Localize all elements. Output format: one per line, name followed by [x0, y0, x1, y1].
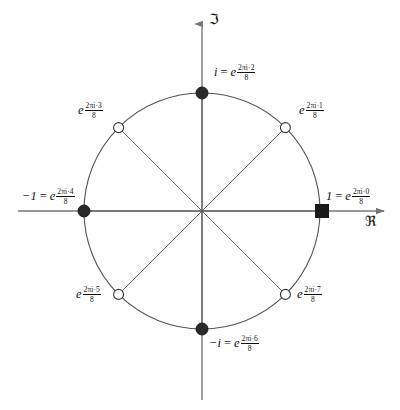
root-label-k2-prefix: i	[214, 66, 217, 79]
root-marker-k2	[196, 87, 208, 99]
root-label-k0-base: e	[345, 190, 351, 203]
root-label-k0-numerator: 2πi·0	[352, 188, 370, 196]
root-label-k0: 1 = e 2πi·0 8	[326, 190, 370, 212]
root-label-k3-denominator: 8	[85, 112, 103, 120]
root-label-k5: e 2πi·5 8	[76, 288, 101, 310]
root-label-k3: e 2πi·3 8	[78, 104, 103, 126]
imaginary-axis-label: ℑ	[209, 12, 219, 26]
root-label-k3-exponent: 2πi·3 8	[85, 102, 103, 120]
root-label-k0-equals: =	[335, 190, 342, 203]
root-label-k4-prefix: −1	[22, 190, 37, 203]
root-label-k2-base: e	[231, 66, 237, 79]
root-marker-k5	[114, 289, 124, 299]
root-label-k3-numerator: 2πi·3	[85, 102, 103, 110]
root-label-k4-equals: =	[40, 190, 47, 203]
root-label-k5-base: e	[76, 288, 82, 301]
roots-of-unity-figure: ℑ ℜ i = e 2πi·2 8 e 2πi·1 8 e 2πi·3 8 1 …	[0, 0, 400, 410]
root-label-k4-denominator: 8	[56, 198, 74, 206]
root-label-k7-denominator: 8	[304, 296, 322, 304]
root-label-k6-denominator: 8	[241, 345, 259, 353]
root-label-k6-base: e	[234, 337, 240, 350]
root-label-k6: −i = e 2πi·6 8	[209, 337, 259, 359]
root-label-k2: i = e 2πi·2 8	[214, 66, 255, 88]
root-label-k5-exponent: 2πi·5 8	[83, 286, 101, 304]
root-label-k5-denominator: 8	[83, 296, 101, 304]
root-label-k1-numerator: 2πi·1	[306, 102, 324, 110]
root-label-k2-exponent: 2πi·2 8	[237, 64, 255, 82]
root-marker-k4	[78, 205, 90, 217]
root-label-k2-numerator: 2πi·2	[237, 64, 255, 72]
root-marker-k7	[280, 289, 290, 299]
root-label-k7: e 2πi·7 8	[297, 288, 322, 310]
root-label-k0-prefix: 1	[326, 190, 332, 203]
root-label-k4-base: e	[50, 190, 56, 203]
root-label-k7-base: e	[297, 288, 303, 301]
root-label-k4-exponent: 2πi·4 8	[56, 188, 74, 206]
root-label-k1-base: e	[299, 104, 305, 117]
root-label-k1-exponent: 2πi·1 8	[306, 102, 324, 120]
root-label-k4: −1 = e 2πi·4 8	[22, 190, 75, 212]
root-marker-k1	[280, 123, 290, 133]
root-label-k7-numerator: 2πi·7	[304, 286, 322, 294]
root-marker-k3	[114, 123, 124, 133]
root-label-k2-denominator: 8	[237, 74, 255, 82]
root-label-k4-numerator: 2πi·4	[56, 188, 74, 196]
root-label-k6-prefix: −i	[209, 337, 221, 350]
root-label-k7-exponent: 2πi·7 8	[304, 286, 322, 304]
root-label-k2-equals: =	[220, 66, 227, 79]
root-label-k3-base: e	[78, 104, 84, 117]
root-label-k5-numerator: 2πi·5	[83, 286, 101, 294]
root-label-k1-denominator: 8	[306, 112, 324, 120]
root-label-k6-exponent: 2πi·6 8	[241, 335, 259, 353]
root-label-k0-exponent: 2πi·0 8	[352, 188, 370, 206]
root-label-k0-denominator: 8	[352, 198, 370, 206]
root-marker-k6	[196, 323, 208, 335]
root-label-k1: e 2πi·1 8	[299, 104, 324, 126]
real-axis-label: ℜ	[365, 214, 376, 228]
root-label-k6-equals: =	[224, 337, 231, 350]
root-label-k6-numerator: 2πi·6	[241, 335, 259, 343]
